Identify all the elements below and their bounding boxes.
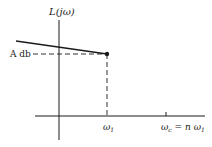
y-axis-label: L(jω) [48, 6, 75, 17]
omega1-label: ω1 [103, 122, 114, 133]
corner-point [105, 52, 109, 56]
omegac-label: ωc = n ω1 [161, 122, 205, 133]
bode-diagram: L(jω) A db ω1 ωc = n ω1 [0, 0, 212, 147]
level-label: A db [9, 49, 31, 59]
